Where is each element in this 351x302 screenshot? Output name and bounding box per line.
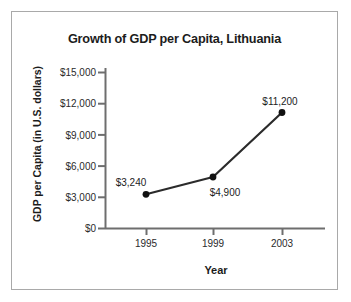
data-marker-1999 bbox=[210, 174, 217, 181]
data-marker-1995 bbox=[143, 191, 150, 198]
plot-area bbox=[0, 0, 351, 302]
data-line-gdp-per-capita bbox=[146, 113, 282, 195]
chart-figure: Growth of GDP per Capita, Lithuania GDP … bbox=[0, 0, 351, 302]
data-marker-2003 bbox=[279, 109, 286, 116]
